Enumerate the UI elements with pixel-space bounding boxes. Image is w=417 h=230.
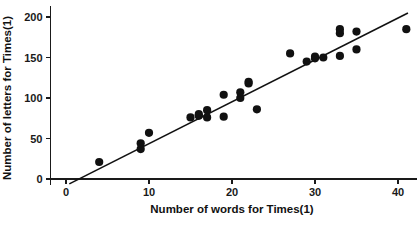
data-point: [336, 52, 344, 60]
data-point: [95, 158, 103, 166]
x-tick-label: 20: [226, 186, 238, 198]
data-point: [352, 27, 360, 35]
x-axis-title: Number of words for Times(1): [150, 203, 314, 215]
data-point: [286, 49, 294, 57]
x-tick-label: 10: [143, 186, 155, 198]
data-point: [311, 53, 319, 61]
scatter-chart: 010203040050100150200Number of words for…: [0, 0, 417, 230]
y-tick-label: 0: [36, 173, 42, 185]
y-tick-label: 100: [24, 92, 42, 104]
data-point-group: [95, 25, 410, 166]
data-point: [220, 91, 228, 99]
data-point: [203, 106, 211, 114]
x-tick-label: 30: [309, 186, 321, 198]
y-tick-label: 150: [24, 52, 42, 64]
y-tick-label: 200: [24, 11, 42, 23]
data-point: [245, 78, 253, 86]
data-point: [336, 25, 344, 33]
data-point: [352, 45, 360, 53]
data-point: [319, 53, 327, 61]
data-point: [137, 139, 145, 147]
data-point: [303, 57, 311, 65]
plot-area: 010203040050100150200Number of words for…: [0, 0, 417, 230]
data-point: [402, 25, 410, 33]
data-point: [220, 113, 228, 121]
x-tick-label: 40: [392, 186, 404, 198]
y-axis-title: Number of letters for Times(1): [1, 16, 13, 180]
data-point: [186, 113, 194, 121]
data-point: [145, 129, 153, 137]
y-tick-label: 50: [30, 133, 42, 145]
data-point: [195, 110, 203, 118]
data-point: [203, 113, 211, 121]
x-tick-label: 0: [63, 186, 69, 198]
data-point: [253, 105, 261, 113]
data-point: [236, 88, 244, 96]
